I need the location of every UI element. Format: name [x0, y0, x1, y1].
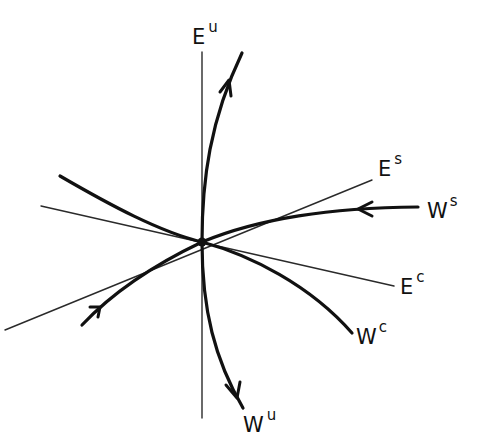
label-wc: Wc [356, 318, 387, 349]
label-es: Es [378, 150, 402, 181]
fixed-point-dot [198, 238, 207, 247]
label-ws: Ws [427, 192, 458, 223]
label-wu: Wu [243, 406, 276, 437]
unstable-manifold-upper-branch [202, 53, 242, 242]
stable-subspace-line [5, 180, 372, 330]
label-eu: Eu [192, 18, 218, 49]
label-ec: Ec [400, 268, 425, 299]
phase-portrait-diagram: Eu Es Ws Ec Wc Wu [0, 0, 477, 445]
unstable-manifold-lower-branch [202, 242, 243, 408]
